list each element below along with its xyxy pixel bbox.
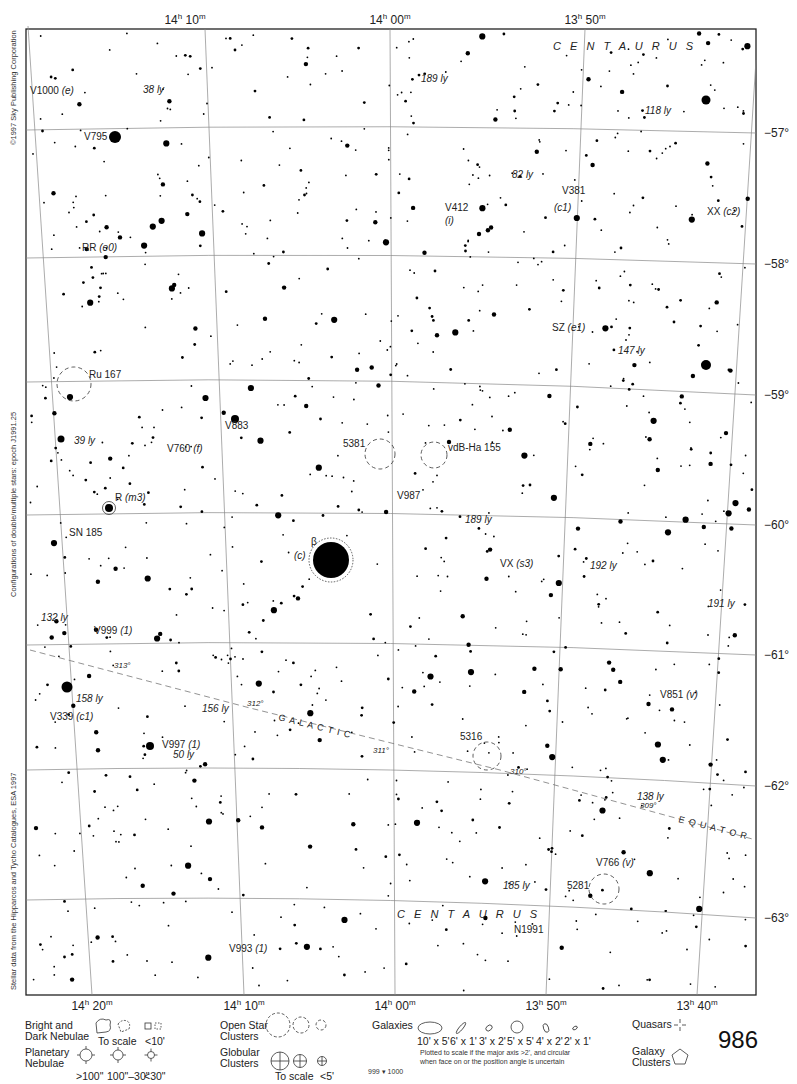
star — [208, 877, 212, 881]
star — [689, 217, 695, 223]
star — [325, 73, 327, 75]
star — [744, 886, 746, 888]
star — [282, 251, 285, 254]
dec-label-61: −61° — [764, 648, 789, 662]
star — [407, 220, 409, 222]
star — [351, 491, 353, 493]
star — [115, 941, 117, 943]
adjacent-page-right[interactable]: 1000 — [388, 1068, 404, 1075]
object-label: 132 ly — [41, 612, 69, 623]
star — [418, 820, 420, 822]
star — [428, 307, 431, 310]
star — [331, 317, 337, 323]
star — [397, 798, 400, 801]
star — [171, 891, 175, 895]
star — [169, 109, 171, 111]
star — [158, 632, 162, 636]
star — [278, 671, 280, 673]
legend-open-clusters: Open Star Clusters — [220, 1020, 270, 1042]
adjacent-page-left[interactable]: 999 — [368, 1068, 380, 1075]
star — [94, 730, 98, 734]
dec-label-60: −60° — [764, 518, 789, 532]
star — [118, 235, 122, 239]
star — [219, 801, 222, 804]
object-label: 50 ly — [173, 749, 195, 760]
star — [682, 568, 684, 570]
star — [723, 107, 725, 109]
star — [93, 790, 96, 793]
legend-quasars: Quasars — [632, 1019, 672, 1030]
star — [498, 826, 501, 829]
object-label: V987 — [397, 490, 421, 501]
adjacent-page-links[interactable]: 999 ▾ 1000 — [368, 1068, 403, 1076]
star — [632, 363, 636, 367]
star — [714, 986, 716, 988]
star — [633, 73, 635, 75]
ra-label-top-2: 13h 50m — [564, 12, 605, 27]
star — [308, 844, 312, 848]
star — [680, 394, 684, 398]
star — [142, 757, 144, 759]
star — [413, 272, 415, 274]
star — [699, 896, 701, 898]
star — [525, 725, 527, 727]
star — [661, 932, 663, 934]
star — [316, 693, 318, 695]
star — [630, 908, 633, 911]
star — [539, 837, 541, 839]
star — [521, 453, 527, 459]
star — [647, 437, 651, 441]
star — [714, 89, 716, 91]
star — [637, 62, 639, 64]
star — [195, 806, 197, 808]
star — [384, 642, 386, 644]
star — [447, 781, 449, 783]
star — [482, 878, 488, 884]
star — [375, 211, 377, 213]
star — [90, 941, 92, 943]
star — [223, 721, 225, 723]
galactic-equator-label: G A L A C T I C — [278, 712, 353, 740]
star — [572, 899, 574, 901]
star — [201, 466, 204, 469]
star — [206, 103, 208, 105]
star — [123, 298, 125, 300]
star — [50, 76, 53, 79]
star — [746, 197, 750, 201]
star — [109, 636, 111, 638]
star — [346, 535, 348, 537]
star — [363, 867, 365, 869]
star — [452, 862, 454, 864]
bright-star — [58, 436, 65, 443]
dec-line — [26, 513, 756, 525]
star — [533, 454, 535, 456]
star — [581, 834, 584, 837]
legend-galaxy-size-1: 6' x 1' — [450, 1036, 477, 1047]
star — [515, 117, 517, 119]
star — [105, 774, 108, 777]
star — [513, 110, 516, 113]
star — [742, 112, 745, 115]
star — [693, 914, 695, 916]
star — [609, 951, 611, 953]
star — [744, 267, 746, 269]
star — [50, 635, 54, 639]
object-label: (c) — [294, 550, 306, 561]
star — [728, 368, 732, 372]
star — [598, 606, 600, 608]
star — [65, 536, 67, 538]
star — [684, 408, 686, 410]
star — [291, 37, 294, 40]
star — [184, 489, 186, 491]
star — [726, 738, 729, 741]
ra-line — [390, 29, 395, 995]
star — [169, 285, 175, 291]
star — [265, 863, 267, 865]
star — [341, 238, 343, 240]
star — [489, 225, 493, 229]
star — [316, 465, 322, 471]
star — [551, 847, 554, 850]
star — [157, 174, 159, 176]
star — [105, 195, 107, 197]
star — [406, 864, 408, 866]
